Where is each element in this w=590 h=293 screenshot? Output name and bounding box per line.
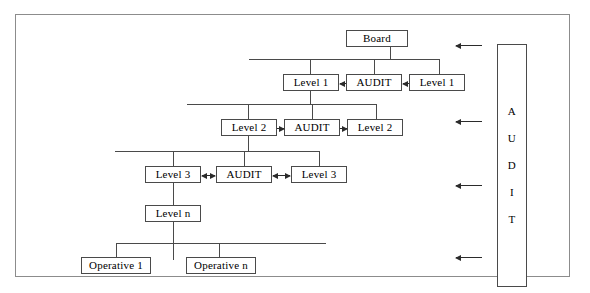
drop-bus-to-operative-1: [116, 243, 117, 257]
bus-line-level2: [187, 104, 377, 105]
bus-line-level1: [249, 59, 439, 60]
drop-level3-to-leveln: [173, 183, 174, 205]
node-level3-left[interactable]: Level 3: [145, 166, 201, 183]
node-level1-right-label: Level 1: [420, 77, 455, 88]
bus-line-operatives: [116, 243, 326, 244]
drop-bus-to-level1-left: [310, 59, 311, 74]
drop-bus3-to-level3-audit: [244, 151, 245, 166]
arrow-audit-feed-4: [456, 257, 482, 258]
node-level1-left-label: Level 1: [294, 77, 329, 88]
drop-bus2-to-level2-left: [248, 104, 249, 119]
arrow-level3-left-audit: [202, 175, 215, 176]
audit-letter-d: D: [508, 160, 516, 171]
arrow-level3-audit-right: [273, 175, 290, 176]
audit-column[interactable]: A U D I T: [497, 44, 527, 287]
figure-frame: Board Level 1 AUDIT Level 1 Level 2 AUDI…: [15, 14, 570, 277]
diagram-page: Board Level 1 AUDIT Level 1 Level 2 AUDI…: [0, 0, 590, 293]
node-level1-left[interactable]: Level 1: [283, 74, 339, 91]
node-level-n-label: Level n: [156, 208, 191, 219]
drop-bus2-to-level2-right: [376, 104, 377, 119]
node-level2-left[interactable]: Level 2: [221, 119, 277, 136]
audit-letter-t: T: [508, 214, 515, 225]
node-level2-right-label: Level 2: [358, 122, 393, 133]
node-level3-left-label: Level 3: [156, 169, 191, 180]
node-level3-audit[interactable]: AUDIT: [216, 166, 272, 183]
drop-level2-to-bus3: [248, 136, 249, 152]
node-level2-right[interactable]: Level 2: [347, 119, 403, 136]
arrow-level2-left-to-audit: [277, 128, 284, 129]
drop-bus3-to-level3-left: [173, 151, 174, 166]
node-level1-audit-label: AUDIT: [356, 77, 391, 88]
node-level3-audit-label: AUDIT: [226, 169, 261, 180]
drop-board-to-bus: [390, 47, 391, 60]
bus-line-level3: [115, 151, 320, 152]
audit-letter-a: A: [508, 106, 516, 117]
drop-level1-to-bus2: [310, 91, 311, 105]
drop-bus-to-level1-audit: [374, 59, 375, 74]
arrow-audit-feed-1: [456, 45, 482, 46]
node-board[interactable]: Board: [346, 30, 408, 47]
arrow-level2-audit-to-right: [340, 128, 347, 129]
drop-bus-to-level1-right: [439, 59, 440, 74]
stem-below-level-n: [173, 222, 174, 260]
node-level2-audit[interactable]: AUDIT: [284, 119, 340, 136]
arrow-audit-feed-2: [456, 121, 482, 122]
audit-letter-i: I: [510, 187, 514, 198]
drop-bus2-to-level2-audit: [312, 104, 313, 119]
node-board-label: Board: [363, 33, 391, 44]
node-operative-n-label: Operative n: [194, 260, 248, 271]
node-level1-right[interactable]: Level 1: [409, 74, 465, 91]
node-operative-n[interactable]: Operative n: [186, 257, 256, 274]
node-operative-1[interactable]: Operative 1: [81, 257, 151, 274]
arrow-level1-audit-to-left: [340, 83, 346, 84]
audit-letter-u: U: [508, 133, 516, 144]
node-level1-audit[interactable]: AUDIT: [346, 74, 402, 91]
node-level3-right[interactable]: Level 3: [291, 166, 347, 183]
drop-bus3-to-level3-right: [319, 151, 320, 166]
arrow-level1-right-to-audit: [403, 83, 409, 84]
node-level3-right-label: Level 3: [302, 169, 337, 180]
drop-bus-to-operative-n: [219, 243, 220, 257]
node-level-n[interactable]: Level n: [145, 205, 201, 222]
node-level2-audit-label: AUDIT: [294, 122, 329, 133]
node-level2-left-label: Level 2: [232, 122, 267, 133]
node-operative-1-label: Operative 1: [89, 260, 143, 271]
arrow-audit-feed-3: [456, 185, 482, 186]
